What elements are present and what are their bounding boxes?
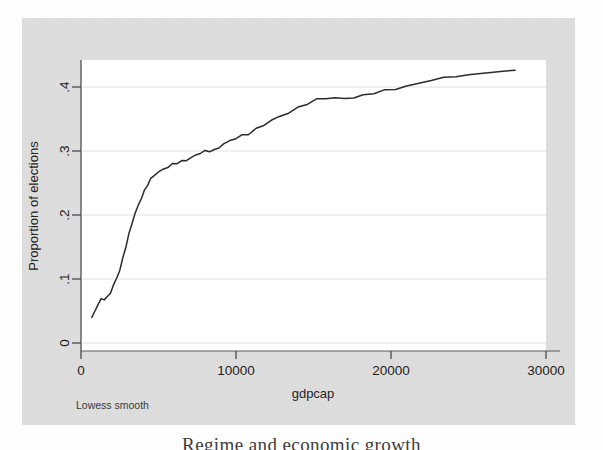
x-tick-label: 30000 [527, 363, 565, 378]
plot-area [81, 60, 546, 351]
x-axis-title: gdpcap [292, 386, 335, 401]
y-tick-label: .1 [57, 273, 72, 284]
y-tick-label: .2 [57, 209, 72, 220]
x-axis-ticks: 0100002000030000 [77, 351, 565, 378]
y-axis-title: Proportion of elections [26, 141, 41, 271]
x-tick-label: 20000 [372, 363, 410, 378]
y-tick-label: 0 [57, 339, 72, 347]
lowess-note: Lowess smooth [76, 399, 149, 411]
y-tick-label: .4 [57, 81, 72, 93]
page-background: 0.1.2.3.4 0100002000030000 gdpcap Propor… [0, 0, 603, 450]
x-tick-label: 0 [77, 363, 85, 378]
y-tick-label: .3 [57, 145, 72, 156]
x-tick-label: 10000 [217, 363, 255, 378]
figure-caption: Regime and economic growth [0, 432, 603, 450]
y-axis-ticks: 0.1.2.3.4 [57, 81, 82, 347]
lowess-chart: 0.1.2.3.4 0100002000030000 gdpcap Propor… [0, 0, 603, 450]
